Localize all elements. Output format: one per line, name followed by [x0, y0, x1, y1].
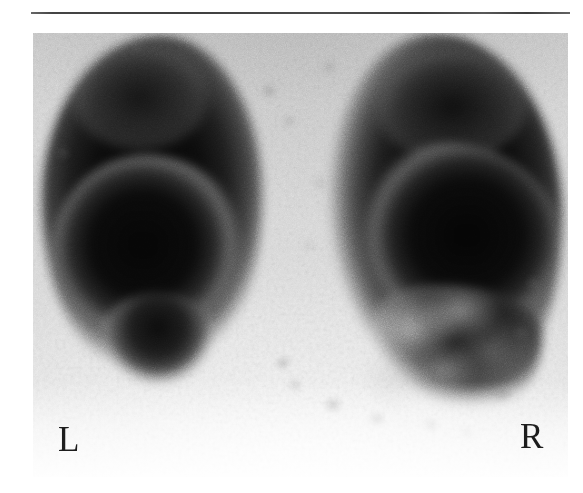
scintigraphy-scan-image: L R [33, 33, 568, 477]
orientation-label-right: R [520, 419, 543, 454]
film-grain-fine-overlay [33, 33, 568, 477]
orientation-label-left: L [58, 422, 79, 457]
horizontal-rule-divider [31, 12, 570, 14]
scintigraphy-figure: L R [0, 0, 583, 493]
